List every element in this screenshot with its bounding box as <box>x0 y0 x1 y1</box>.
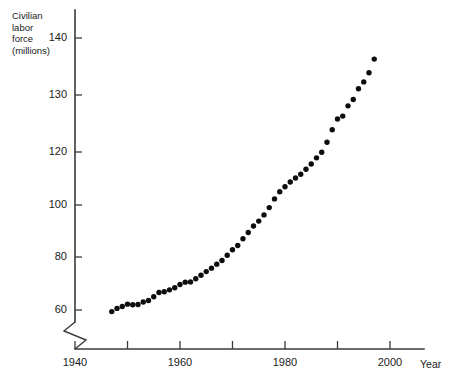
data-point <box>209 265 214 270</box>
x-axis-name: Year <box>420 358 441 370</box>
data-point <box>366 70 371 75</box>
data-point <box>162 289 167 294</box>
data-point <box>251 223 256 228</box>
y-tick-label: 120 <box>33 145 67 157</box>
data-point <box>314 155 319 160</box>
data-point <box>141 299 146 304</box>
data-point <box>277 189 282 194</box>
data-point <box>351 97 356 102</box>
data-point <box>272 196 277 201</box>
data-point <box>183 279 188 284</box>
x-tick-label: 2000 <box>366 356 414 368</box>
data-point <box>345 103 350 108</box>
data-point <box>261 212 266 217</box>
data-point <box>319 150 324 155</box>
data-point <box>125 301 130 306</box>
data-point <box>156 290 161 295</box>
data-point <box>282 184 287 189</box>
data-point <box>188 279 193 284</box>
data-point <box>293 175 298 180</box>
data-point <box>167 287 172 292</box>
data-point <box>356 86 361 91</box>
plot-canvas <box>0 0 452 385</box>
data-point <box>130 302 135 307</box>
data-point <box>214 261 219 266</box>
data-point <box>135 302 140 307</box>
data-point <box>204 269 209 274</box>
y-tick-group <box>75 38 82 310</box>
data-point <box>114 306 119 311</box>
data-point <box>267 205 272 210</box>
data-point <box>324 140 329 145</box>
x-tick-label: 1960 <box>156 356 204 368</box>
data-point <box>120 304 125 309</box>
chart-figure: Civilian labor force (millions) 60801001… <box>0 0 452 385</box>
y-tick-label: 100 <box>33 198 67 210</box>
axes-group <box>64 10 424 349</box>
data-point <box>309 161 314 166</box>
x-tick-label: 1940 <box>51 356 99 368</box>
y-tick-label: 60 <box>33 303 67 315</box>
data-point <box>256 218 261 223</box>
data-point <box>298 172 303 177</box>
data-point <box>361 79 366 84</box>
data-point <box>303 167 308 172</box>
x-tick-group <box>75 341 390 349</box>
data-point <box>230 247 235 252</box>
data-point <box>198 273 203 278</box>
data-point <box>288 179 293 184</box>
data-point <box>246 230 251 235</box>
data-point <box>225 252 230 257</box>
data-point <box>177 282 182 287</box>
y-tick-label: 80 <box>33 250 67 262</box>
data-point <box>340 113 345 118</box>
y-tick-label: 140 <box>33 31 67 43</box>
data-point <box>372 56 377 61</box>
data-point <box>172 285 177 290</box>
data-point <box>235 243 240 248</box>
x-tick-label: 1980 <box>261 356 309 368</box>
y-tick-label: 130 <box>33 88 67 100</box>
data-point <box>151 294 156 299</box>
data-point <box>330 127 335 132</box>
data-point-group <box>109 56 377 314</box>
data-point <box>335 116 340 121</box>
data-point <box>219 258 224 263</box>
data-point <box>193 276 198 281</box>
data-point <box>146 298 151 303</box>
data-point <box>109 309 114 314</box>
data-point <box>240 236 245 241</box>
